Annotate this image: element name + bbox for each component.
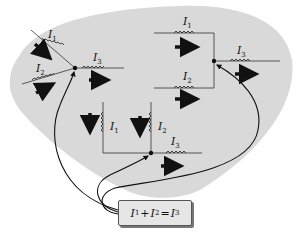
label-i2-middle: I2 <box>158 121 167 135</box>
junction-rule-diagram: I1 I2 I3 I1 I2 I3 I1 I2 I3 I1 + I2 = I3 <box>0 0 302 236</box>
label-i3-left: I3 <box>93 52 102 66</box>
label-i1-left: I1 <box>48 29 57 43</box>
label-i3-middle: I3 <box>171 136 180 150</box>
junction-node-left <box>73 66 77 70</box>
label-i2-right: I2 <box>183 71 192 85</box>
label-i3-right: I3 <box>237 45 246 59</box>
junction-node-middle <box>149 151 153 155</box>
junction-node-right <box>212 59 216 63</box>
equation-box: I1 + I2 = I3 <box>118 200 192 226</box>
label-i1-right: I1 <box>183 16 192 30</box>
label-i2-left: I2 <box>36 63 45 77</box>
label-i1-middle: I1 <box>110 121 119 135</box>
